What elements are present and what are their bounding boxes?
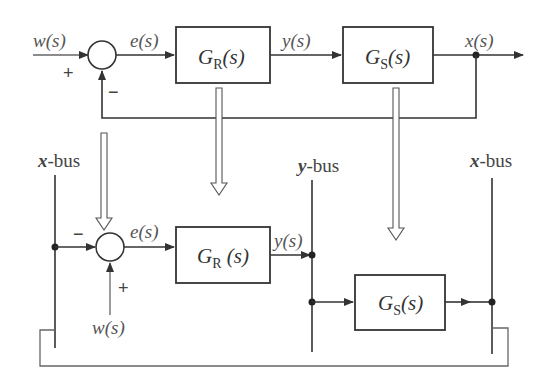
error-label: e(s) [130,30,158,52]
right-bus-label: x-bus [469,150,512,171]
plant-label: GS(s) [365,45,410,72]
bus-control-label: y(s) [272,230,302,252]
bus-control-diagram: w(s) + − e(s) GR(s) y(s) GS(s) x(s) x-bu… [0,0,542,390]
bus-error-label: e(s) [130,221,158,243]
input-label: w(s) [33,30,66,52]
summing-mapping-arrow [96,133,112,230]
bus-plus-sign: + [118,278,129,298]
summing-junction [88,41,116,69]
ybus-input-junction-dot [309,252,316,259]
mapping-arrows [96,88,404,240]
plant-mapping-arrow [388,88,404,240]
bus-minus-sign: − [73,224,84,244]
right-bus-junction-dot [489,299,496,306]
plus-sign: + [63,63,74,83]
controller-mapping-arrow [211,88,227,195]
bus-plant-label: GS(s) [378,291,423,318]
middle-bus-label: y-bus [296,155,339,176]
control-label: y(s) [280,30,310,52]
minus-sign: − [108,82,119,102]
left-bus-label: x-bus [37,150,80,171]
bus-summing-junction [96,233,124,261]
bus-controller-label: GR (s) [197,244,249,271]
top-control-loop: w(s) + − e(s) GR(s) y(s) GS(s) x(s) [33,27,523,118]
bus-input-label: w(s) [92,317,125,339]
output-label: x(s) [464,30,493,52]
bus-structure: x-bus − + w(s) e(s) GR (s) y(s) y-bus GS… [37,150,512,366]
